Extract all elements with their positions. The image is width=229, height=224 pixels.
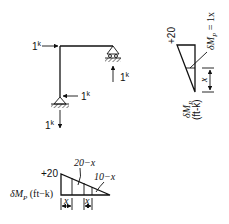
pin-support-icon (51, 97, 69, 108)
beam-label-10-x: 10−x (94, 171, 116, 182)
leader-line (190, 52, 207, 68)
top-load-label: 1k (32, 40, 42, 52)
bottom-v-reaction-label: 1k (45, 119, 55, 131)
frame-structure: 1k 1k 1k 1k (32, 40, 130, 131)
column-units-text: (ft-k) (191, 99, 202, 120)
column-dim-label: x (198, 77, 209, 83)
beam-dim-label-1: x (63, 195, 69, 206)
beam-units-label: δMP (ft−k) (10, 188, 53, 202)
structural-diagram: 1k 1k 1k 1k +20 (0, 0, 229, 224)
bottom-h-reaction-label: 1k (81, 90, 91, 102)
column-top-value: +20 (166, 27, 177, 44)
beam-label-20-x: 20−x (74, 157, 96, 168)
moment-triangle (177, 45, 195, 92)
column-moment-label: δMP = 1x (205, 12, 219, 50)
beam-moment-diagram: +20 20−x 10−x δMP (ft−k) x x (10, 157, 116, 210)
beam-left-value: +20 (41, 168, 58, 179)
roller-support-icon (105, 46, 121, 62)
right-reaction-label: 1k (120, 71, 130, 83)
beam-dim-label-2: x (84, 195, 90, 206)
column-moment-diagram: +20 δMP = 1x x δMP (ft-k) (166, 12, 219, 120)
